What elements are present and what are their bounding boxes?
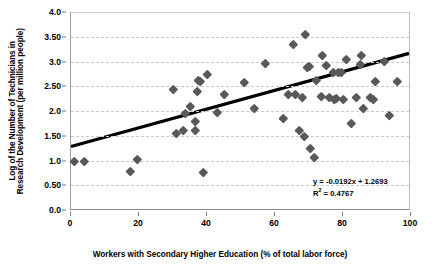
y-tick-label: 0.50 xyxy=(44,180,61,190)
x-axis-tick-labels: 020406080100 xyxy=(70,212,410,228)
gridline xyxy=(71,12,409,13)
y-axis-title: Log of the Number of Technicians in Rese… xyxy=(0,0,34,222)
scatter-chart: Log of the Number of Technicians in Rese… xyxy=(0,0,440,275)
x-tick-label: 60 xyxy=(269,218,279,228)
x-tick-mark xyxy=(206,212,207,216)
regression-annotation: y = -0.0192x + 1.2693 R2 = 0.4767 xyxy=(313,176,388,199)
gridline xyxy=(71,161,409,162)
y-tick-label: 3.0 xyxy=(49,57,61,67)
x-tick-mark xyxy=(138,212,139,216)
y-tick-mark xyxy=(62,185,66,186)
regression-equation: y = -0.0192x + 1.2693 xyxy=(313,176,388,187)
x-tick-label: 100 xyxy=(403,218,417,228)
gridline xyxy=(71,37,409,38)
y-axis-tick-labels: 0.00.501.01.502.02.503.03.504.0 xyxy=(34,0,66,222)
y-tick-mark xyxy=(62,36,66,37)
x-tick-label: 0 xyxy=(68,218,73,228)
y-tick-label: 0.0 xyxy=(49,205,61,215)
x-tick-mark xyxy=(410,212,411,216)
r-squared-value: = 0.4767 xyxy=(321,189,353,198)
r-squared-line: R2 = 0.4767 xyxy=(313,187,388,199)
gridline xyxy=(71,136,409,137)
y-tick-label: 3.50 xyxy=(44,32,61,42)
y-tick-label: 4.0 xyxy=(49,7,61,17)
gridline xyxy=(71,86,409,87)
y-tick-mark xyxy=(62,160,66,161)
x-tick-mark xyxy=(274,212,275,216)
x-tick-mark xyxy=(342,212,343,216)
x-tick-label: 40 xyxy=(201,218,211,228)
y-tick-mark xyxy=(62,86,66,87)
x-tick-label: 20 xyxy=(133,218,143,228)
y-tick-label: 2.50 xyxy=(44,81,61,91)
y-tick-mark xyxy=(62,12,66,13)
y-tick-label: 1.50 xyxy=(44,131,61,141)
x-axis-title: Workers with Secondary Higher Education … xyxy=(0,250,440,259)
y-tick-label: 2.0 xyxy=(49,106,61,116)
gridline xyxy=(71,111,409,112)
y-tick-mark xyxy=(62,135,66,136)
x-tick-label: 80 xyxy=(337,218,347,228)
y-tick-label: 1.0 xyxy=(49,156,61,166)
x-tick-mark xyxy=(70,212,71,216)
y-tick-mark xyxy=(62,111,66,112)
y-axis-title-line-2: Research Development (per million people… xyxy=(17,28,25,194)
y-tick-mark xyxy=(62,61,66,62)
y-tick-mark xyxy=(62,210,66,211)
